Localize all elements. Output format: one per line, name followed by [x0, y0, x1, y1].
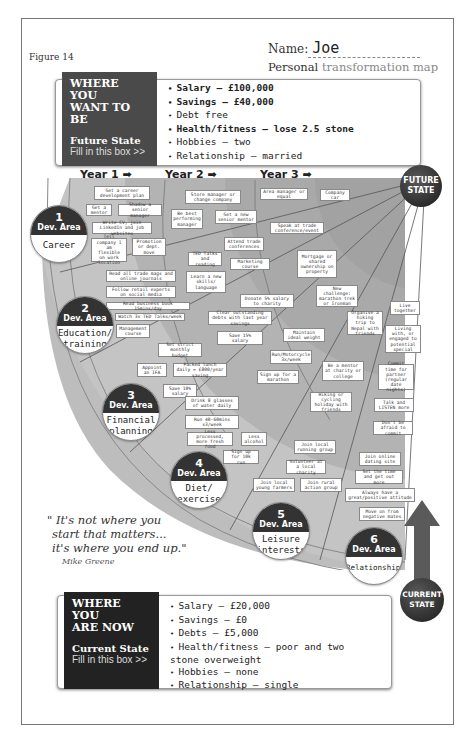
- note-leisure: Organise a hiking trip to Nepal with fri…: [347, 311, 383, 335]
- dev-area-label: Dev. Area: [253, 521, 309, 532]
- note-education: TED Talks and reading: [188, 252, 222, 266]
- dev-area-label: Dev. Area: [31, 224, 87, 235]
- dev-area-name: Leisure interests: [253, 532, 309, 556]
- list-item: Relationship – married: [168, 150, 354, 164]
- dev-area-label: Dev. Area: [171, 470, 227, 481]
- note-career: Write CV, join LinkedIn and job websites: [92, 222, 152, 234]
- note-education: Management course: [116, 324, 150, 338]
- current-state-text: STATE: [402, 600, 442, 610]
- note-leisure: Volunteer at a local charity: [286, 460, 326, 474]
- note-leisure: Join local young farmers: [253, 478, 295, 492]
- current-state-text: CURRENT: [402, 590, 442, 600]
- current-state-list: Salary – £20,000 Savings – £0 Debts – £5…: [170, 600, 345, 693]
- future-state-badge: FUTURESTATE: [400, 165, 442, 207]
- dev-area-name: Diet/ exercise: [171, 481, 227, 505]
- quote-line: start that matters...: [47, 527, 186, 541]
- quote-line: it's where you end up.": [47, 541, 186, 555]
- note-leisure: Join local running group: [294, 440, 336, 454]
- list-item: Relationship – single: [170, 679, 345, 693]
- note-education: Follow retail experts on social media: [106, 286, 176, 298]
- list-item: Savings – £0: [170, 614, 345, 628]
- list-item: Hobbies – none: [170, 666, 345, 680]
- note-financial: Clear outstanding debts with last year s…: [208, 311, 272, 325]
- note-relationships: Commit time for partner (regular date ni…: [378, 364, 414, 390]
- current-heading-1: WHERE YOU: [72, 598, 151, 622]
- note-relationships: Live together: [390, 301, 420, 315]
- note-career: Get a career development plan: [94, 186, 150, 200]
- note-diet: Less processed, more fresh food: [187, 432, 233, 446]
- note-career: Shadow a senior manager: [118, 204, 162, 216]
- current-state-box[interactable]: WHERE YOU ARE NOW Current State Fill in …: [57, 595, 392, 689]
- note-career: Promotion or dept. move: [132, 238, 166, 256]
- current-fill-prompt: Fill in this box >>: [72, 654, 151, 665]
- future-state-text: FUTURE: [403, 176, 439, 186]
- quote: " It's not where you start that matters.…: [47, 513, 186, 555]
- name-field[interactable]: Name:Joe: [268, 39, 339, 57]
- future-state-box[interactable]: WHERE YOU WANT TO BE Future State Fill i…: [55, 79, 421, 166]
- current-state-label: Current State: [72, 643, 151, 654]
- note-education: Read business book 15mins/day: [106, 302, 190, 310]
- note-career: Area manager or equal: [260, 188, 308, 200]
- note-career: Get a new senior mentor: [215, 210, 257, 224]
- name-value: Joe: [312, 39, 339, 57]
- future-state-list: Salary – £100,000 Savings – £40,000 Debt…: [168, 82, 354, 163]
- note-financial: Save 15% salary: [217, 331, 263, 345]
- dev-area-name: Education/ training: [57, 326, 113, 350]
- dev-area-label: Dev. Area: [57, 315, 113, 326]
- note-diet: Maintain ideal weight: [283, 328, 325, 342]
- dev-area-education[interactable]: 2Dev. Area Education/ training: [56, 296, 114, 354]
- future-fill-prompt: Fill in this box >>: [70, 146, 149, 157]
- list-item: Hobbies – two: [168, 136, 354, 150]
- note-relationships: Move on from negative mates: [359, 507, 405, 521]
- future-state-label-panel: WHERE YOU WANT TO BE Future State Fill i…: [62, 72, 157, 166]
- figure-label: Figure 14: [29, 52, 74, 62]
- note-diet: Run/Motorcycle 3x/week: [270, 350, 312, 364]
- dev-area-name: Career: [31, 235, 87, 251]
- note-career: Get a mentor: [86, 204, 112, 216]
- note-leisure: Be a mentor at charity or college: [322, 361, 364, 381]
- future-heading-1: WHERE YOU: [70, 78, 149, 102]
- note-leisure: Hiking or cycling holiday with friends: [310, 392, 352, 412]
- list-item: Salary – £20,000: [170, 600, 345, 614]
- future-heading-2: WANT TO BE: [70, 102, 149, 126]
- note-financial: Mortgage or shared ownership on property: [297, 250, 337, 278]
- dev-area-relationships[interactable]: 6Dev. Area Relationships: [345, 527, 403, 585]
- note-diet: Sign up for a marathon: [257, 370, 299, 384]
- note-career: Tell company I am flexible on work locat…: [91, 238, 127, 262]
- list-item: Salary – £100,000: [168, 82, 354, 96]
- dev-area-career[interactable]: 1Dev. Area Career: [30, 205, 88, 263]
- future-state-label: Future State: [70, 135, 149, 146]
- note-education: Read all trade mags and online journals: [106, 270, 176, 282]
- note-financial: Set strict monthly budget: [158, 343, 202, 357]
- note-career: Be best performing manager: [171, 209, 203, 229]
- list-item: Health/fitness – poor and two stone over…: [170, 641, 345, 666]
- note-career: Company car: [320, 189, 350, 201]
- quote-line: " It's not where you: [47, 513, 186, 527]
- dev-area-name: Relationships: [346, 557, 402, 573]
- quote-author: Mike Greene: [62, 557, 114, 566]
- note-education: Learn a new skills/ language: [186, 271, 226, 293]
- current-state-badge: CURRENTSTATE: [400, 578, 444, 622]
- note-financial: Appoint an IFA: [137, 363, 167, 377]
- note-career: Store manager or change company: [185, 190, 241, 204]
- dev-area-financial[interactable]: 3Dev. Area Financial planning: [102, 383, 160, 441]
- name-label: Name:: [268, 42, 308, 56]
- note-diet: New challenge: marathon trek or Ironman: [316, 285, 358, 307]
- dev-area-name: Financial planning: [103, 413, 159, 437]
- note-education: Speak at trade conference/event: [270, 222, 324, 234]
- list-item: Debt free: [168, 109, 354, 123]
- note-relationships: Talk and LISTEN more: [374, 398, 414, 412]
- note-diet: Run 40-60mins x3/week: [185, 415, 239, 429]
- dev-area-leisure[interactable]: 5Dev. Area Leisure interests: [252, 502, 310, 560]
- list-item: Health/fitness – lose 2.5 stone: [168, 123, 354, 137]
- dev-area-diet[interactable]: 4Dev. Area Diet/ exercise: [170, 451, 228, 509]
- list-item: Savings – £40,000: [168, 96, 354, 110]
- note-relationships: Set the time and get out more: [355, 470, 403, 484]
- map-title: Personal transformation map: [268, 60, 438, 74]
- note-financial: Packed lunch daily = £800/year saving: [173, 363, 227, 377]
- dev-area-label: Dev. Area: [103, 402, 159, 413]
- name-underline: [308, 57, 420, 58]
- note-diet: Sign up for 10k run: [223, 450, 259, 464]
- future-state-text: STATE: [403, 186, 439, 196]
- note-education: Marketing course: [230, 258, 270, 270]
